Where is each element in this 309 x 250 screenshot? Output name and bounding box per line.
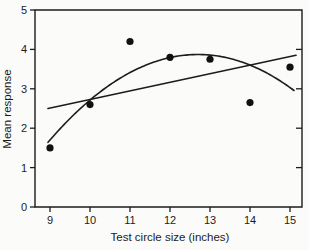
data-point	[206, 56, 213, 63]
fit-lines	[48, 55, 296, 143]
x-tick-label: 15	[284, 214, 296, 226]
chart-canvas: 0123459101112131415 Test circle size (in…	[0, 0, 309, 250]
y-axis-label: Mean response	[1, 69, 13, 148]
x-axis-label: Test circle size (inches)	[111, 231, 230, 243]
x-tick-label: 9	[47, 214, 53, 226]
x-tick-label: 12	[164, 214, 176, 226]
y-tick-label: 4	[21, 43, 27, 55]
linear-fit-line	[48, 55, 296, 108]
x-tick-label: 11	[124, 214, 135, 226]
x-tick-label: 13	[204, 214, 216, 226]
plot-border	[35, 10, 302, 207]
y-tick-label: 2	[21, 122, 27, 134]
y-tick-label: 3	[21, 83, 27, 95]
quadratic-fit-curve	[48, 55, 294, 143]
scatter-plot-figure: 0123459101112131415 Test circle size (in…	[0, 0, 309, 250]
data-point	[46, 144, 53, 151]
data-point	[246, 99, 253, 106]
y-tick-label: 1	[21, 162, 27, 174]
data-point	[286, 64, 293, 71]
x-tick-label: 14	[244, 214, 256, 226]
axis-ticks: 0123459101112131415	[21, 4, 302, 226]
data-point	[166, 54, 173, 61]
plot-frame	[35, 10, 302, 207]
y-tick-label: 5	[21, 4, 27, 16]
x-tick-label: 10	[84, 214, 96, 226]
data-points	[46, 38, 293, 152]
y-tick-label: 0	[21, 201, 27, 213]
data-point	[126, 38, 133, 45]
data-point	[86, 101, 93, 108]
